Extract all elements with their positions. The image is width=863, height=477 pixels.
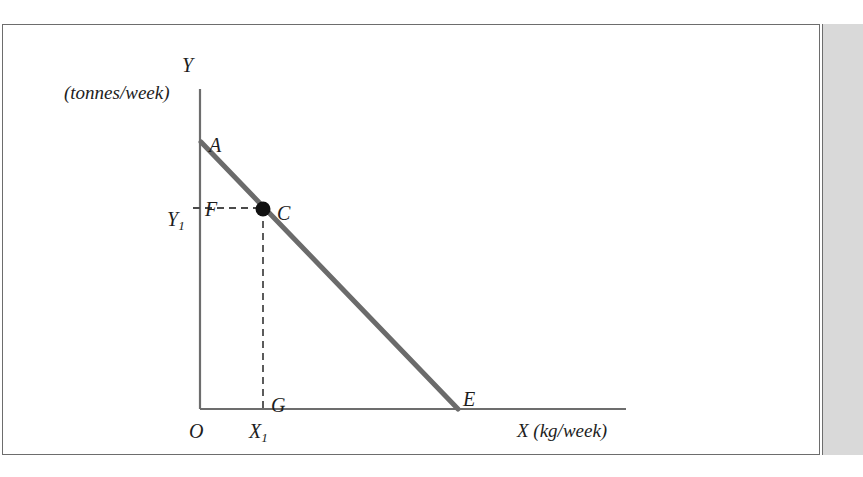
y-axis-units-label: (tonnes/week)	[64, 83, 170, 102]
point-c-marker	[256, 202, 271, 217]
point-f-label: F	[205, 199, 217, 219]
point-g-label: G	[271, 395, 285, 415]
ppf-frontier-line	[201, 142, 458, 409]
x1-base: X	[249, 420, 261, 442]
y1-subscript: 1	[178, 218, 185, 233]
chart-plot-area: Y (tonnes/week) A Y1 F C G O X1 E X (kg/…	[3, 25, 821, 456]
figure-page: Y (tonnes/week) A Y1 F C G O X1 E X (kg/…	[0, 0, 863, 477]
x1-tick-label: X1	[249, 421, 268, 444]
point-c-label: C	[277, 203, 290, 223]
point-e-label: E	[463, 389, 475, 409]
x-axis-units-label: X (kg/week)	[517, 421, 607, 440]
y-axis-letter-label: Y	[182, 55, 193, 75]
figure-frame: Y (tonnes/week) A Y1 F C G O X1 E X (kg/…	[2, 24, 820, 455]
y1-tick-label: Y1	[167, 209, 185, 232]
x1-subscript: 1	[261, 430, 268, 445]
point-a-label: A	[209, 135, 221, 155]
origin-label: O	[189, 421, 203, 441]
page-gutter-panel	[822, 24, 863, 455]
y1-base: Y	[167, 208, 178, 230]
